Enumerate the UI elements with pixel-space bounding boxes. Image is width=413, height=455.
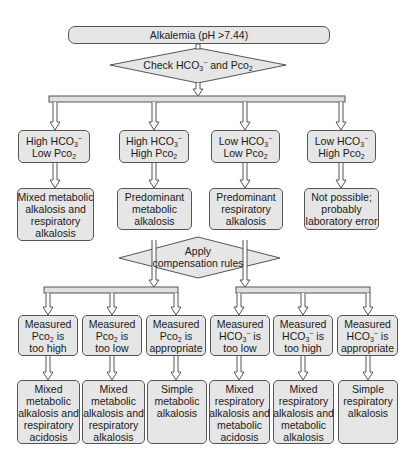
line: metabolic xyxy=(18,395,79,407)
line: Pco xyxy=(160,330,178,342)
line: appropriate xyxy=(341,342,394,354)
r1-sub: 2 xyxy=(173,153,177,160)
line: is xyxy=(378,330,389,342)
line: Pco xyxy=(32,330,50,342)
line: is xyxy=(182,330,193,342)
line: Measured xyxy=(149,318,202,330)
line: alkalosis xyxy=(155,407,200,419)
r1-text: Low HCO xyxy=(219,135,265,147)
start-node-alkalemia: Alkalemia (pH >7.44) xyxy=(68,26,330,44)
condition-node-1: High HCO3−Low Pco2 xyxy=(18,130,90,163)
line: HCO xyxy=(219,330,242,342)
line: alkalosis and xyxy=(273,407,334,419)
decision-check-label: Check HCO3− and Pco2 xyxy=(120,59,276,71)
line: acidosis xyxy=(18,431,79,443)
line: metabolic xyxy=(83,395,144,407)
line: Measured xyxy=(217,318,264,330)
branch-bar-1 xyxy=(49,96,345,102)
r1-text: High HCO xyxy=(26,135,74,147)
decision-compensation-label: Apply compensation rules xyxy=(140,245,256,269)
r1-sub: 2 xyxy=(361,153,365,160)
line: alkalosis xyxy=(18,227,94,239)
line: metabolic xyxy=(273,419,334,431)
result-node-predominant-metabolic: Predominantmetabolicalkalosis xyxy=(117,188,192,230)
r1-sup: − xyxy=(268,135,272,142)
line: is xyxy=(118,330,129,342)
measure-node-3: MeasuredPco2 isappropriate xyxy=(146,315,206,356)
line: Measured xyxy=(89,318,136,330)
r1-text: High HCO xyxy=(126,135,174,147)
line: is xyxy=(250,330,261,342)
line: metabolic xyxy=(155,395,200,407)
line: Mixed xyxy=(18,383,79,395)
line: respiratory xyxy=(273,395,334,407)
line: Predominant xyxy=(216,191,276,203)
line: alkalosis and xyxy=(83,407,144,419)
final-node-5: Mixedrespiratoryalkalosis andmetabolical… xyxy=(273,380,334,444)
final-node-2: Mixedmetabolicalkalosis andrespiratoryal… xyxy=(82,380,145,444)
line: too high xyxy=(25,342,72,354)
line: alkalosis and xyxy=(209,407,270,419)
line: is xyxy=(313,330,324,342)
line: metabolic xyxy=(125,203,185,215)
condition-node-2: High HCO3−High Pco2 xyxy=(119,130,189,163)
line: Measured xyxy=(341,318,394,330)
measure-node-1: MeasuredPco2 istoo high xyxy=(18,315,78,356)
line: respiratory xyxy=(209,395,270,407)
line: Measured xyxy=(25,318,72,330)
final-node-1: Mixedmetabolicalkalosis andrespiratoryac… xyxy=(17,380,80,444)
line: laboratory error xyxy=(306,215,378,227)
final-node-6: Simplerespiratoryalkalosis xyxy=(338,380,398,444)
line: is xyxy=(54,330,65,342)
line: HCO xyxy=(282,330,305,342)
line: alkalosis xyxy=(273,431,334,443)
d1-text-a: Check HCO xyxy=(143,59,199,71)
line: alkalosis and xyxy=(18,407,79,419)
result-node-lab-error: Not possible;probablylaboratory error xyxy=(304,188,379,230)
d2-line2: compensation rules xyxy=(140,257,256,269)
line: Measured xyxy=(280,318,327,330)
r1-sup: − xyxy=(78,135,82,142)
r1-sup: − xyxy=(178,135,182,142)
condition-node-4: Low HCO3−High Pco2 xyxy=(307,130,376,163)
line: alkalosis xyxy=(343,407,393,419)
line: too high xyxy=(280,342,327,354)
line: acidosis xyxy=(209,431,270,443)
r1-text: Low Pco xyxy=(223,147,263,159)
line: alkalosis xyxy=(216,215,276,227)
start-node-label: Alkalemia (pH >7.44) xyxy=(150,29,248,41)
line: Simple xyxy=(343,383,393,395)
final-node-3: Simplemetabolicalkalosis xyxy=(147,380,207,444)
r1-text: High Pco xyxy=(318,147,361,159)
result-node-predominant-respiratory: Predominantrespiratoryalkalosis xyxy=(209,188,283,230)
line: respiratory xyxy=(18,215,94,227)
line: Pco xyxy=(96,330,114,342)
r1-sub: 2 xyxy=(264,153,268,160)
line: Mixed metabolic xyxy=(18,191,94,203)
line: Predominant xyxy=(125,191,185,203)
r1-sup: − xyxy=(364,135,368,142)
d1-sub1: 3 xyxy=(199,65,203,72)
line: Mixed xyxy=(83,383,144,395)
line: respiratory xyxy=(216,203,276,215)
line: probably xyxy=(306,203,378,215)
line: Simple xyxy=(155,383,200,395)
line: respiratory xyxy=(83,419,144,431)
r1-text: Low HCO xyxy=(315,135,361,147)
branch-bar-2-left xyxy=(44,287,178,293)
condition-node-3: Low HCO3−Low Pco2 xyxy=(211,130,280,163)
d1-sub2: 2 xyxy=(249,65,253,72)
d1-text-b: and Pco xyxy=(207,59,248,71)
final-node-4: Mixedrespiratoryalkalosis andmetabolicac… xyxy=(209,380,270,444)
d2-line1: Apply xyxy=(140,245,256,257)
line: Not possible; xyxy=(306,191,378,203)
measure-node-5: MeasuredHCO3− istoo high xyxy=(273,315,333,356)
r1-sub: 2 xyxy=(72,153,76,160)
line: alkalosis xyxy=(83,431,144,443)
line: respiratory xyxy=(18,419,79,431)
line: respiratory xyxy=(343,395,393,407)
line: appropriate xyxy=(149,342,202,354)
line: too low xyxy=(217,342,264,354)
line: Mixed xyxy=(209,383,270,395)
line: Mixed xyxy=(273,383,334,395)
